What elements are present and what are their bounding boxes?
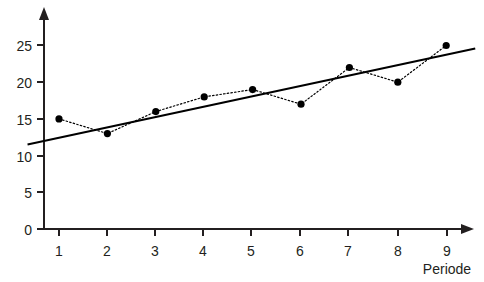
data-point-markers xyxy=(55,42,449,137)
x-tick-label: 4 xyxy=(199,243,207,259)
data-point-marker xyxy=(249,86,256,93)
x-axis-tick-labels: 1 2 3 4 5 6 7 8 9 xyxy=(55,243,451,259)
y-tick-label: 15 xyxy=(16,112,32,128)
data-point-marker xyxy=(55,115,62,122)
x-tick-label: 1 xyxy=(55,243,63,259)
y-tick-label: 25 xyxy=(16,38,32,54)
x-tick-label: 5 xyxy=(247,243,255,259)
y-tick-label: 10 xyxy=(16,149,32,165)
y-tick-label: 20 xyxy=(16,75,32,91)
x-tick-label: 7 xyxy=(344,243,352,259)
axes xyxy=(39,7,474,234)
data-point-marker xyxy=(346,64,353,71)
data-point-marker xyxy=(297,101,304,108)
x-axis-arrow-icon xyxy=(461,224,474,234)
x-axis-title: Periode xyxy=(423,261,471,277)
x-tick-label: 6 xyxy=(296,243,304,259)
y-axis-tick-labels: 25 20 15 10 5 0 xyxy=(16,38,32,238)
data-point-marker xyxy=(443,42,450,49)
trend-line xyxy=(28,48,476,144)
x-tick-label: 3 xyxy=(151,243,159,259)
data-point-marker xyxy=(152,108,159,115)
data-point-marker xyxy=(104,130,111,137)
y-axis-ticks xyxy=(37,45,44,229)
data-point-marker xyxy=(394,79,401,86)
x-axis-ticks xyxy=(59,229,447,236)
x-tick-label: 9 xyxy=(443,243,451,259)
chart-figure: 25 20 15 10 5 0 1 2 3 4 5 6 7 8 xyxy=(0,0,484,282)
y-tick-label: 5 xyxy=(24,185,32,201)
data-point-marker xyxy=(201,93,208,100)
y-axis-arrow-icon xyxy=(39,7,49,20)
x-tick-label: 8 xyxy=(394,243,402,259)
x-tick-label: 2 xyxy=(103,243,111,259)
y-tick-label: 0 xyxy=(24,222,32,238)
chart-canvas: 25 20 15 10 5 0 1 2 3 4 5 6 7 8 xyxy=(0,0,484,282)
